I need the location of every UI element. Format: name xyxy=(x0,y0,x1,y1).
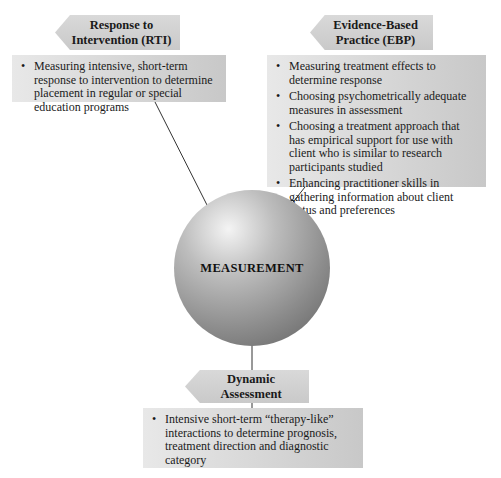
measurement-sphere: MEASUREMENT xyxy=(174,190,330,346)
bullet-icon: • xyxy=(152,413,156,427)
bullet-icon: • xyxy=(276,177,280,191)
bullet-icon: • xyxy=(276,90,280,104)
center-label: MEASUREMENT xyxy=(200,261,303,276)
da-description-box: •Intensive short-term “therapy-like” int… xyxy=(143,408,363,468)
rti-title-line1: Response to xyxy=(90,18,154,32)
ebp-title-tag: Evidence-Based Practice (EBP) xyxy=(310,15,433,50)
da-title-tag: Dynamic Assessment xyxy=(185,370,309,403)
da-item: •Intensive short-term “therapy-like” int… xyxy=(151,413,355,467)
rti-title-line2: Intervention (RTI) xyxy=(72,33,172,47)
connector-rti xyxy=(155,102,208,207)
ebp-description-box: •Measuring treatment effects to determin… xyxy=(267,55,486,187)
ebp-item: •Choosing psychometrically adequate meas… xyxy=(275,90,478,117)
da-title-line1: Dynamic xyxy=(227,372,275,386)
rti-title-tag: Response to Intervention (RTI) xyxy=(55,15,180,50)
bullet-icon: • xyxy=(21,60,25,74)
bullet-icon: • xyxy=(276,120,280,134)
rti-description-box: •Measuring intensive, short-term respons… xyxy=(12,55,226,102)
bullet-icon: • xyxy=(276,60,280,74)
rti-item: •Measuring intensive, short-term respons… xyxy=(20,60,218,114)
ebp-item: •Measuring treatment effects to determin… xyxy=(275,60,478,87)
ebp-title-line1: Evidence-Based xyxy=(333,18,418,32)
ebp-item: •Choosing a treatment approach that has … xyxy=(275,120,478,174)
da-title-line2: Assessment xyxy=(220,387,281,401)
ebp-title-line2: Practice (EBP) xyxy=(336,33,415,47)
